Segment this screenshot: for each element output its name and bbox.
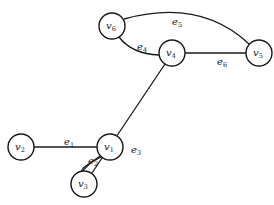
node-v3: v3 [71,171,97,197]
edge-label-e3: e3 [131,144,141,157]
edge-label-e6: e6 [217,56,227,69]
edge-label-e4: e4 [137,41,147,54]
node-v2: v2 [8,134,34,160]
node-v5: v5 [246,40,272,66]
node-v1: v1 [97,134,123,160]
edge-label-e2: e2 [88,155,98,168]
edge-label-e5: e5 [172,16,182,29]
edge-e5 [124,12,249,44]
node-v4: v4 [159,40,185,66]
graph-diagram: v1 v2 v3 v4 v5 v6 e1 e2 e3 e4 e5 e6 [0,0,274,205]
node-v6: v6 [99,13,125,39]
